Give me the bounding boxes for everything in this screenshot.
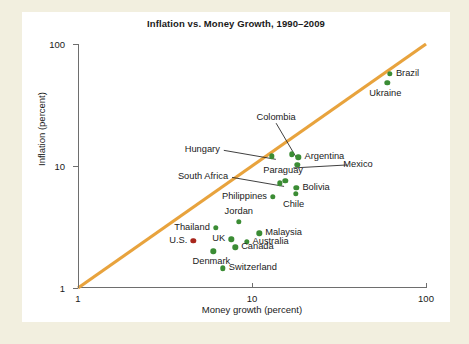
point-label-paraguay: Paraguay bbox=[263, 166, 303, 175]
point-label-thailand: Thailand bbox=[174, 223, 210, 232]
y-axis-tick-label: 100 bbox=[49, 39, 65, 50]
x-axis-tick-label: 10 bbox=[247, 293, 258, 304]
point-label-chile: Chile bbox=[283, 200, 304, 209]
x-axis-tick-label: 100 bbox=[418, 293, 434, 304]
x-axis-tick: 1 bbox=[78, 283, 79, 288]
point-label-south-africa: South Africa bbox=[178, 173, 228, 182]
point-label-mexico: Mexico bbox=[343, 160, 372, 169]
y-axis-tick-label: 1 bbox=[60, 283, 65, 294]
point-label-denmark: Denmark bbox=[193, 258, 231, 267]
y-axis-tick-label: 10 bbox=[54, 161, 65, 172]
y-axis-tick: 100 bbox=[73, 44, 78, 45]
chart-title: Inflation vs. Money Growth, 1990–2009 bbox=[22, 18, 450, 29]
x-axis-tick: 100 bbox=[426, 283, 427, 288]
y-axis-title: Inflation (percent) bbox=[36, 92, 47, 166]
point-label-philippines: Philippines bbox=[222, 192, 267, 201]
x-axis-tick-label: 1 bbox=[75, 293, 80, 304]
point-label-bolivia: Bolivia bbox=[302, 183, 329, 192]
point-label-hungary: Hungary bbox=[185, 146, 220, 155]
point-label-canada: Canada bbox=[241, 243, 274, 252]
point-label-uk: UK bbox=[212, 235, 225, 244]
leader-line-south-africa bbox=[232, 177, 284, 186]
point-label-jordan: Jordan bbox=[225, 207, 253, 216]
point-label-brazil: Brazil bbox=[396, 69, 419, 78]
y-axis-tick: 10 bbox=[73, 166, 78, 167]
leader-line-hungary bbox=[224, 150, 276, 159]
point-label-colombia: Colombia bbox=[256, 114, 295, 123]
point-label-switzerland: Switzerland bbox=[229, 264, 277, 273]
point-label-u-s: U.S. bbox=[169, 236, 187, 245]
y-axis-tick: 1 bbox=[73, 288, 78, 289]
figure-container: Inflation vs. Money Growth, 1990–2009 In… bbox=[0, 0, 469, 344]
chart-card: Inflation vs. Money Growth, 1990–2009 In… bbox=[22, 12, 450, 322]
x-axis-title: Money growth (percent) bbox=[78, 304, 426, 315]
point-label-ukraine: Ukraine bbox=[369, 89, 401, 98]
x-axis-tick: 10 bbox=[252, 283, 253, 288]
plot-area: 110100110100 BrazilUkraineColombiaArgent… bbox=[78, 44, 426, 288]
point-label-argentina: Argentina bbox=[304, 153, 344, 162]
